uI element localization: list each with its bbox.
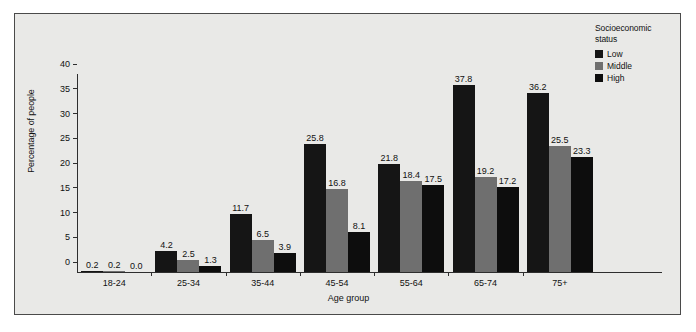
bar-slot: 8.1: [348, 74, 370, 272]
y-tick-mark: [73, 64, 77, 65]
x-tick-label: 45-54: [300, 278, 374, 288]
chart-legend: Socioeconomic status LowMiddleHigh: [595, 23, 681, 84]
legend-label: Low: [607, 49, 623, 59]
bar-slot: 6.5: [252, 74, 274, 272]
legend-item-high[interactable]: High: [595, 72, 681, 83]
bar-value-label: 4.2: [160, 240, 173, 250]
bar-middle[interactable]: [549, 146, 571, 272]
bar-slot: 23.3: [571, 74, 593, 272]
y-tick-25: 25: [60, 133, 77, 143]
bar-low[interactable]: [304, 144, 326, 272]
bar-value-label: 37.8: [455, 74, 473, 84]
bar-slot: 16.8: [326, 74, 348, 272]
x-tick-label: 55-64: [374, 278, 448, 288]
bar-group: 36.225.523.375+: [523, 74, 597, 272]
bar-slot: 18.4: [400, 74, 422, 272]
y-tick-label: 30: [60, 109, 70, 119]
y-tick-30: 30: [60, 109, 77, 119]
bar-value-label: 21.8: [381, 153, 399, 163]
bar-low[interactable]: [453, 85, 475, 272]
y-tick-35: 35: [60, 84, 77, 94]
legend-title: Socioeconomic status: [595, 23, 681, 44]
bar-middle[interactable]: [252, 240, 274, 272]
bar-group: 11.76.53.935-44: [226, 74, 300, 272]
x-tick-mark: [523, 272, 524, 276]
bar-value-label: 17.2: [499, 176, 517, 186]
bar-value-label: 1.3: [204, 255, 217, 265]
bar-group: 25.816.88.145-54: [300, 74, 374, 272]
bar-middle[interactable]: [475, 177, 497, 272]
y-tick-15: 15: [60, 183, 77, 193]
bar-middle[interactable]: [326, 189, 348, 272]
bar-slot: 11.7: [230, 74, 252, 272]
bar-value-label: 0.0: [130, 261, 143, 271]
bar-value-label: 25.8: [306, 133, 324, 143]
chart-figure: Socioeconomic status LowMiddleHigh Perce…: [14, 13, 681, 315]
bar-group-bars: 25.816.88.1: [300, 74, 374, 272]
y-tick-label: 20: [60, 158, 70, 168]
bar-slot: 0.2: [81, 74, 103, 272]
bar-slot: 37.8: [453, 74, 475, 272]
legend-label: High: [607, 73, 624, 83]
x-tick-mark: [226, 272, 227, 276]
x-tick-mark: [151, 272, 152, 276]
x-axis-title: Age group: [15, 293, 682, 303]
y-tick-label: 5: [65, 232, 70, 242]
bar-group-bars: 21.818.417.5: [374, 74, 448, 272]
bar-value-label: 11.7: [232, 203, 249, 213]
bar-slot: 1.3: [199, 74, 221, 272]
bar-low[interactable]: [527, 93, 549, 272]
bar-middle[interactable]: [177, 260, 199, 272]
bar-value-label: 2.5: [182, 249, 195, 259]
y-tick-5: 5: [65, 232, 77, 242]
legend-title-line-1: Socioeconomic: [595, 23, 681, 34]
bar-value-label: 25.5: [551, 135, 569, 145]
bar-slot: 17.2: [497, 74, 519, 272]
bar-group-bars: 4.22.51.3: [151, 74, 225, 272]
bar-low[interactable]: [81, 271, 103, 272]
legend-swatch-low: [595, 50, 603, 58]
bar-slot: 25.5: [549, 74, 571, 272]
x-tick-label: 25-34: [151, 278, 225, 288]
plot-area: 05101520253035400.20.20.018-244.22.51.32…: [77, 74, 597, 272]
legend-label: Middle: [607, 61, 632, 71]
bar-value-label: 0.2: [86, 260, 99, 270]
bar-value-label: 0.2: [108, 260, 121, 270]
bar-group: 37.819.217.265-74: [448, 74, 522, 272]
bar-high[interactable]: [274, 253, 296, 272]
bar-slot: 25.8: [304, 74, 326, 272]
bar-low[interactable]: [155, 251, 177, 272]
y-tick-label: 40: [60, 59, 70, 69]
legend-item-middle[interactable]: Middle: [595, 60, 681, 71]
y-tick-label: 0: [65, 257, 70, 267]
legend-title-line-2: status: [595, 34, 681, 45]
bar-low[interactable]: [378, 164, 400, 272]
bar-slot: 0.0: [125, 74, 147, 272]
bar-group-bars: 11.76.53.9: [226, 74, 300, 272]
x-tick-label: 75+: [523, 278, 597, 288]
bar-high[interactable]: [497, 187, 519, 272]
bar-group-bars: 36.225.523.3: [523, 74, 597, 272]
x-tick-mark: [374, 272, 375, 276]
legend-item-low[interactable]: Low: [595, 48, 681, 59]
bar-slot: 0.2: [103, 74, 125, 272]
y-tick-0: 0: [65, 257, 77, 267]
bar-high[interactable]: [348, 232, 370, 272]
bar-low[interactable]: [230, 214, 252, 272]
bar-high[interactable]: [422, 185, 444, 272]
x-tick-mark: [448, 272, 449, 276]
bar-value-label: 36.2: [529, 82, 547, 92]
y-tick-label: 15: [60, 183, 70, 193]
y-tick-label: 25: [60, 133, 70, 143]
bar-slot: 36.2: [527, 74, 549, 272]
bar-slot: 3.9: [274, 74, 296, 272]
bar-group: 21.818.417.555-64: [374, 74, 448, 272]
bar-middle[interactable]: [103, 271, 125, 272]
bar-high[interactable]: [199, 266, 221, 272]
bar-high[interactable]: [571, 157, 593, 272]
bar-value-label: 17.5: [425, 174, 443, 184]
bar-value-label: 8.1: [353, 221, 366, 231]
bar-value-label: 19.2: [477, 166, 495, 176]
bar-middle[interactable]: [400, 181, 422, 272]
legend-swatch-middle: [595, 62, 603, 70]
